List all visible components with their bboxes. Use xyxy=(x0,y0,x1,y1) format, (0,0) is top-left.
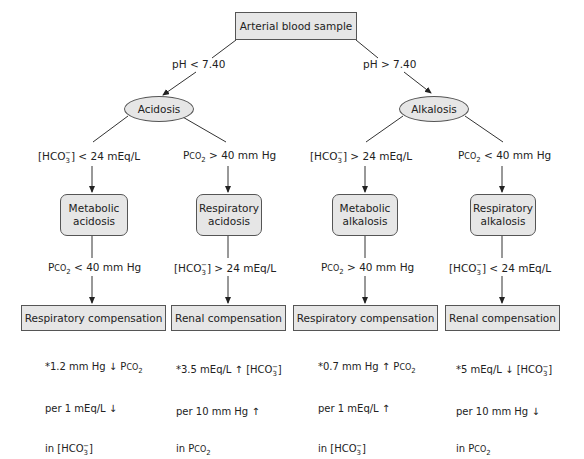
compensation-label: Renal compensation xyxy=(175,312,282,325)
note-line2: per 1 mEq/L ↑ xyxy=(318,403,416,416)
compensation-renal-1: Renal compensation xyxy=(171,305,286,331)
state-node-alkalosis: Alkalosis xyxy=(399,96,469,122)
compensation-label: Renal compensation xyxy=(449,312,556,325)
state-label-alkalosis: Alkalosis xyxy=(411,103,457,116)
disorder-line2: acidosis xyxy=(208,215,250,228)
compensation-label: Respiratory compensation xyxy=(25,312,163,325)
state-label-acidosis: Acidosis xyxy=(138,103,181,116)
trigger-hco3-high: [HCO3−] > 24 mEq/L xyxy=(174,261,276,277)
note-respiratory-comp-alkalosis: *0.7 mm Hg ↑ PCO2 per 1 mEq/L ↑ in [HCO3… xyxy=(318,336,416,459)
disorder-line1: Respiratory xyxy=(473,202,533,215)
trigger-pco2-high: PCO2 > 40 mm Hg xyxy=(321,261,414,276)
compensation-label: Respiratory compensation xyxy=(297,312,435,325)
disorder-respiratory-acidosis: Respiratory acidosis xyxy=(196,194,262,236)
note-respiratory-comp-acidosis: *1.2 mm Hg ↓ PCO2 per 1 mEq/L ↓ in [HCO3… xyxy=(45,336,143,459)
condition-pco2-high-acidosis: PCO2 > 40 mm Hg xyxy=(183,149,276,164)
disorder-line2: acidosis xyxy=(73,215,115,228)
disorder-respiratory-alkalosis: Respiratory alkalosis xyxy=(470,194,536,236)
condition-ph-low: pH < 7.40 xyxy=(172,58,225,70)
disorder-line2: alkalosis xyxy=(481,215,526,228)
note-line2: per 1 mEq/L ↓ xyxy=(45,403,143,416)
compensation-respiratory-2: Respiratory compensation xyxy=(293,305,438,331)
disorder-line1: Metabolic xyxy=(340,202,391,215)
trigger-pco2-low: PCO2 < 40 mm Hg xyxy=(48,261,141,276)
root-node-label: Arterial blood sample xyxy=(240,20,353,33)
condition-ph-high: pH > 7.40 xyxy=(363,58,416,70)
compensation-renal-2: Renal compensation xyxy=(445,305,560,331)
condition-hco3-high-alkalosis: [HCO3−] > 24 mEq/L xyxy=(310,149,412,165)
compensation-respiratory-1: Respiratory compensation xyxy=(21,305,166,331)
state-node-acidosis: Acidosis xyxy=(124,96,194,122)
disorder-line2: alkalosis xyxy=(343,215,388,228)
disorder-line1: Metabolic xyxy=(69,202,120,215)
condition-hco3-low-acidosis: [HCO3−] < 24 mEq/L xyxy=(38,149,140,165)
condition-pco2-low-alkalosis: PCO2 < 40 mm Hg xyxy=(458,149,551,164)
note-line2: per 10 mm Hg ↑ xyxy=(176,406,282,419)
root-node-arterial-blood-sample: Arterial blood sample xyxy=(235,12,357,40)
disorder-metabolic-acidosis: Metabolic acidosis xyxy=(60,194,128,236)
note-line2: per 10 mm Hg ↓ xyxy=(456,406,552,419)
disorder-line1: Respiratory xyxy=(199,202,259,215)
trigger-hco3-low: [HCO3−] < 24 mEq/L xyxy=(449,261,551,277)
disorder-metabolic-alkalosis: Metabolic alkalosis xyxy=(332,194,398,236)
note-renal-comp-alkalosis: *5 mEq/L ↓ [HCO3−] per 10 mm Hg ↓ in PCO… xyxy=(456,336,552,459)
note-renal-comp-acidosis: *3.5 mEq/L ↑ [HCO3−] per 10 mm Hg ↑ in P… xyxy=(176,336,282,459)
